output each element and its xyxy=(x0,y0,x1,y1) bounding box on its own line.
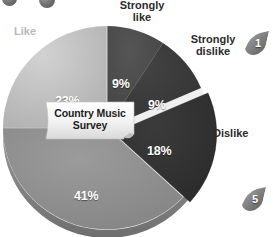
page-curl-number: 5 xyxy=(239,186,269,212)
category-label-dislike: Dislike xyxy=(213,127,265,139)
slice-value-strongly-like: 9% xyxy=(112,77,130,91)
chart-title-line2: Survey xyxy=(73,119,107,131)
category-label-strongly-like: Strongly like xyxy=(106,0,178,23)
page-curl-badge-1: 1 xyxy=(242,30,272,58)
slice-value-neutral: 41% xyxy=(74,189,98,203)
chart-title-line1: Country Music xyxy=(54,107,126,119)
category-label-like: Like xyxy=(14,25,58,37)
decorative-bullet-icon xyxy=(39,0,55,8)
category-label-line: dislike xyxy=(182,45,244,57)
chart-canvas: 9% 9% 18% 23% 41% Strongly like Strongly… xyxy=(0,0,273,237)
page-curl-number: 1 xyxy=(242,30,272,56)
category-label-line: like xyxy=(106,11,178,23)
chart-title-banner: Country Music Survey xyxy=(44,99,140,143)
decorative-bullet-icon xyxy=(2,0,17,6)
slice-value-strongly-dislike: 9% xyxy=(148,98,166,112)
chart-title: Country Music Survey xyxy=(44,99,136,139)
category-label-strongly-dislike: Strongly dislike xyxy=(182,33,244,57)
category-label-line: Strongly xyxy=(182,33,244,45)
category-label-line: Strongly xyxy=(106,0,178,11)
page-curl-badge-5: 5 xyxy=(239,186,269,214)
slice-value-dislike: 18% xyxy=(147,144,171,158)
